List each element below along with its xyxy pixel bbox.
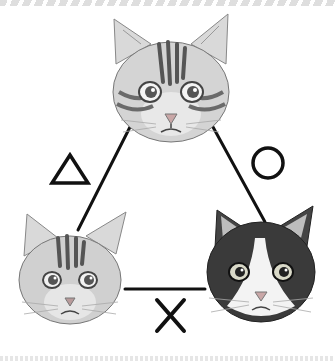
cat-triangle-illustration (0, 0, 335, 364)
cat-face-bottom-right-tuxedo (207, 206, 315, 322)
cross-symbol-icon (157, 300, 184, 331)
cat-face-bottom-left-tabby (19, 212, 126, 324)
triangle-symbol-icon (52, 155, 88, 183)
decorative-bottom-band (0, 356, 335, 361)
circle-symbol-icon (253, 148, 283, 178)
cat-face-top-tabby (113, 14, 229, 142)
